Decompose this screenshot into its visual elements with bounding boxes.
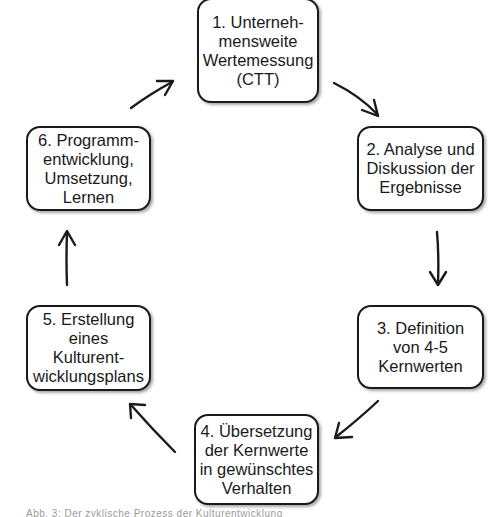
step-4-label: 4. Übersetzung der Kernwerte in gewünsch… bbox=[200, 422, 314, 498]
arrow-6-to-1 bbox=[131, 81, 173, 108]
arrow-2-to-3 bbox=[430, 232, 446, 285]
step-6-box: 6. Programm- entwicklung, Umsetzung, Ler… bbox=[26, 126, 151, 211]
arrow-4-to-5 bbox=[130, 404, 175, 452]
step-4-box: 4. Übersetzung der Kernwerte in gewünsch… bbox=[194, 414, 319, 505]
step-3-box: 3. Definition von 4-5 Kernwerten bbox=[357, 305, 484, 389]
step-3-label: 3. Definition von 4-5 Kernwerten bbox=[377, 319, 464, 376]
step-1-box: 1. Unterneh- mensweite Wertemessung (CTT… bbox=[197, 0, 319, 103]
arrow-5-to-6 bbox=[59, 231, 75, 285]
step-1-label: 1. Unterneh- mensweite Wertemessung (CTT… bbox=[203, 13, 314, 89]
culture-cycle-diagram: 1. Unterneh- mensweite Wertemessung (CTT… bbox=[0, 0, 502, 517]
step-6-label: 6. Programm- entwicklung, Umsetzung, Ler… bbox=[38, 131, 139, 207]
step-5-box: 5. Erstellung eines Kulturent- wicklungs… bbox=[26, 305, 151, 391]
arrow-3-to-4 bbox=[335, 401, 378, 438]
step-2-box: 2. Analyse und Diskussion der Ergebnisse bbox=[357, 126, 484, 211]
step-5-label: 5. Erstellung eines Kulturent- wicklungs… bbox=[33, 310, 144, 386]
arrow-1-to-2 bbox=[334, 83, 378, 116]
figure-caption: Abb. 3: Der zyklische Prozess der Kultur… bbox=[26, 508, 283, 517]
step-2-label: 2. Analyse und Diskussion der Ergebnisse bbox=[366, 140, 474, 197]
